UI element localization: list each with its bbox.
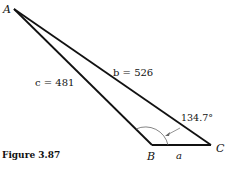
angle-arc [136,127,168,145]
angle-arrowhead-icon [165,132,170,136]
triangle-diagram: A B C b = 526 c = 481 a 134.7° Figure 3.… [0,0,228,169]
side-a-label: a [176,150,182,161]
side-b-label: b = 526 [113,67,153,78]
side-c-label: c = 481 [35,77,74,88]
vertex-b-label: B [146,150,155,163]
vertex-c-label: C [216,142,225,155]
angle-label: 134.7° [181,112,213,123]
vertex-a-label: A [2,3,11,16]
figure-caption: Figure 3.87 [2,150,60,160]
